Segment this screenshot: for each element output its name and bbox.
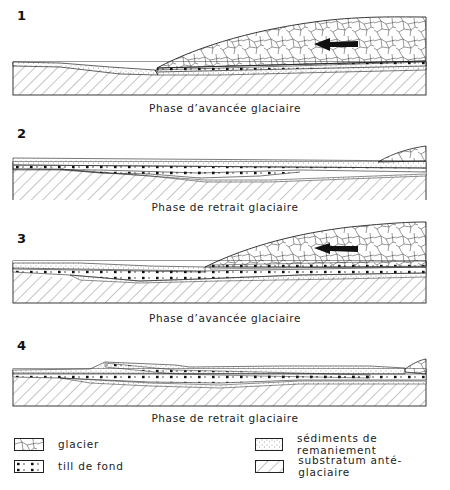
diagonal-hatch-pattern-icon: [255, 460, 284, 473]
legend-item-till: till de fond: [14, 458, 124, 474]
stipple-pattern-icon: [255, 438, 283, 451]
legend-item-substratum: substratum anté-glaciaire: [255, 458, 450, 474]
panel-1-cross-section: [0, 0, 450, 100]
legend-item-sediments: sédiments de remaniement: [255, 436, 450, 452]
panel-4-caption: Phase de retrait glaciaire: [0, 412, 450, 424]
legend-label-glacier: glacier: [58, 438, 99, 450]
panel-1-caption: Phase d’avancée glaciaire: [0, 102, 450, 114]
panel-3-caption: Phase d’avancée glaciaire: [0, 312, 450, 324]
glacier-crackle-pattern-icon: [14, 438, 44, 451]
legend-label-till: till de fond: [58, 460, 124, 472]
dotted-dash-pattern-icon: [14, 460, 44, 473]
legend-label-sediments: sédiments de remaniement: [297, 432, 450, 456]
panel-2-caption: Phase de retrait glaciaire: [0, 201, 450, 213]
legend-label-substratum: substratum anté-glaciaire: [298, 454, 450, 478]
panel-4-cross-section: [0, 350, 450, 410]
panel-3-cross-section: [0, 215, 450, 310]
panel-2-number: 2: [17, 126, 26, 141]
legend-item-glacier: glacier: [14, 436, 99, 452]
panel-2-cross-section: [0, 140, 450, 200]
